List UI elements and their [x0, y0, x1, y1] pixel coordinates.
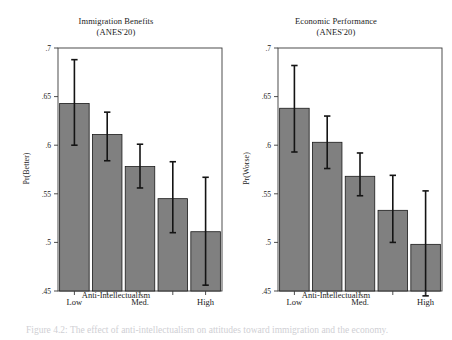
panel-immigration-benefits: Immigration Benefits (ANES'20) Pr(Better…	[8, 16, 224, 308]
y-tick-label: .65	[262, 92, 272, 101]
y-tick-label: .6	[265, 141, 271, 150]
figure-caption-text: Figure 4.2: The effect of anti-intellect…	[26, 325, 436, 336]
plot-area-right: .7.65.6.55.5.45LowMed.High	[228, 16, 444, 308]
y-tick-label: .55	[42, 190, 52, 199]
plot-area-left: .7.65.6.55.5.45LowMed.High	[8, 16, 224, 308]
x-axis-label-right: Anti-Intellectualism	[228, 290, 444, 300]
y-tick-label: .6	[45, 141, 51, 150]
y-tick-label: .5	[45, 238, 51, 247]
figure-caption-cropped: Figure 4.2: The effect of anti-intellect…	[0, 325, 452, 340]
panel-economic-performance: Economic Performance (ANES'20) Pr(Worse)…	[228, 16, 444, 308]
top-cropped-band: predicted probabilities across anti-inte…	[0, 0, 452, 14]
figure-container: predicted probabilities across anti-inte…	[0, 0, 452, 340]
x-axis-label-left: Anti-Intellectualism	[8, 290, 224, 300]
y-tick-label: .7	[45, 44, 51, 53]
y-tick-label: .65	[42, 92, 52, 101]
y-tick-label: .55	[262, 190, 272, 199]
y-tick-label: .5	[265, 238, 271, 247]
y-tick-label: .7	[265, 44, 271, 53]
